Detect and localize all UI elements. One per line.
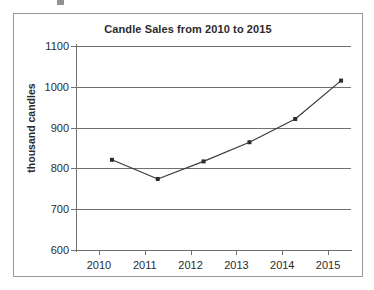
x-tick-mark — [145, 250, 146, 255]
y-gridline — [76, 46, 351, 47]
x-tick-label: 2011 — [133, 259, 157, 271]
y-gridline — [76, 250, 351, 251]
x-tick-mark — [328, 250, 329, 255]
y-gridline — [76, 128, 351, 129]
scan-artifact-mark — [57, 0, 64, 5]
chart-title: Candle Sales from 2010 to 2015 — [14, 23, 362, 35]
x-tick-label: 2012 — [178, 259, 202, 271]
x-tick-label: 2010 — [87, 259, 111, 271]
x-tick-mark — [191, 250, 192, 255]
y-tick-label: 700 — [51, 203, 69, 215]
x-tick-label: 2013 — [224, 259, 248, 271]
x-tick-mark — [99, 250, 100, 255]
y-tick-label: 1100 — [45, 40, 69, 52]
y-tick-label: 1000 — [45, 81, 69, 93]
y-tick-mark — [71, 250, 76, 251]
y-tick-mark — [71, 168, 76, 169]
x-tick-label: 2015 — [316, 259, 340, 271]
y-gridline — [76, 209, 351, 210]
y-tick-label: 800 — [51, 162, 69, 174]
y-tick-label: 600 — [51, 244, 69, 256]
x-tick-label: 2014 — [270, 259, 294, 271]
y-tick-label: 900 — [51, 122, 69, 134]
y-gridline — [76, 87, 351, 88]
x-tick-mark — [236, 250, 237, 255]
y-tick-mark — [71, 87, 76, 88]
x-tick-mark — [282, 250, 283, 255]
chart-container: Candle Sales from 2010 to 2015 thousand … — [13, 13, 363, 277]
plot-area: 60070080090010001100 — [76, 46, 351, 250]
y-tick-mark — [71, 128, 76, 129]
y-tick-mark — [71, 209, 76, 210]
y-axis-title: thousand candles — [25, 68, 37, 188]
y-tick-mark — [71, 46, 76, 47]
y-gridline — [76, 168, 351, 169]
